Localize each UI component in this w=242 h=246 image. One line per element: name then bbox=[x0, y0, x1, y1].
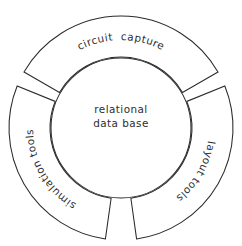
hub-label-line-1: relational bbox=[94, 103, 147, 115]
hub-label-line-2: data base bbox=[93, 117, 149, 129]
diagram-canvas: circuit capture layout tools simulation … bbox=[0, 0, 242, 246]
ring-diagram: circuit capture layout tools simulation … bbox=[0, 0, 242, 246]
